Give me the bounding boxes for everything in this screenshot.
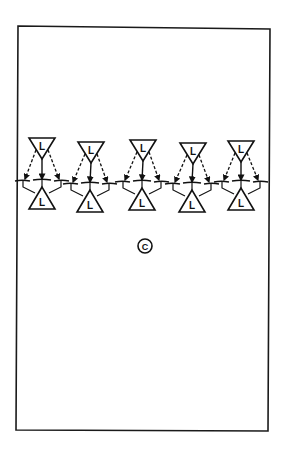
pass-arrow-dashed-icon [175,155,187,182]
bottom-player-label: L [87,200,93,211]
bottom-player-label: L [189,200,195,211]
pass-arrow-dashed-icon [97,154,107,182]
top-player-label: L [238,144,244,155]
top-player-label: L [39,141,45,152]
bottom-player-label: L [238,198,244,209]
gate-bar-center-icon [33,179,51,180]
player-group: LL [214,141,268,210]
pass-arrow-dashed-icon [247,153,258,180]
top-player-label: L [190,146,196,157]
player-group: LL [165,143,219,212]
pass-arrow-dashed-icon [125,152,137,180]
gate-bar-left-icon [165,183,180,184]
connector-left [222,182,234,194]
connector-right [49,181,61,193]
gate-bar-left-icon [214,181,229,182]
player-group: LL [63,142,117,212]
coach-label: C [142,242,149,252]
connector-right [248,182,260,194]
pass-arrow-dashed-icon [48,150,59,179]
player-groups: LLLLLLLLLL [15,138,268,212]
drill-diagram: LLLLLLLLLL C [0,0,284,451]
gate-bar-center-icon [232,180,250,181]
gate-bar-center-icon [183,182,201,183]
pass-arrow-dashed-icon [149,152,159,180]
connector-right [199,184,211,196]
connector-right [97,184,109,196]
gate-bar-right-icon [204,183,219,184]
top-player-label: L [140,143,146,154]
bottom-player-label: L [39,197,45,208]
connector-left [23,181,35,193]
gate-bar-left-icon [63,183,78,184]
player-group: LL [15,138,69,209]
pass-arrow-dashed-icon [73,154,85,182]
bottom-player-label: L [139,198,145,209]
gate-bar-center-icon [133,180,151,181]
gate-bar-right-icon [102,183,117,184]
gate-bar-left-icon [115,181,130,182]
player-group: LL [115,140,169,210]
top-player-label: L [88,145,94,156]
connector-right [149,182,161,194]
pass-arrow-solid-icon [90,163,91,182]
gate-bar-left-icon [15,180,30,181]
connector-left [123,182,135,194]
pass-arrow-dashed-icon [25,150,36,179]
coach: C [138,239,152,253]
gate-bar-right-icon [253,181,268,182]
connector-left [71,184,83,196]
gate-bar-center-icon [81,182,99,183]
pass-arrow-dashed-icon [199,155,209,182]
pass-arrow-solid-icon [192,164,193,182]
pass-arrow-dashed-icon [224,153,235,180]
connector-left [173,184,185,196]
gate-bar-right-icon [154,181,169,182]
gate-bar-right-icon [54,180,69,181]
pass-arrow-solid-icon [142,161,143,180]
field-boundary [16,26,270,431]
